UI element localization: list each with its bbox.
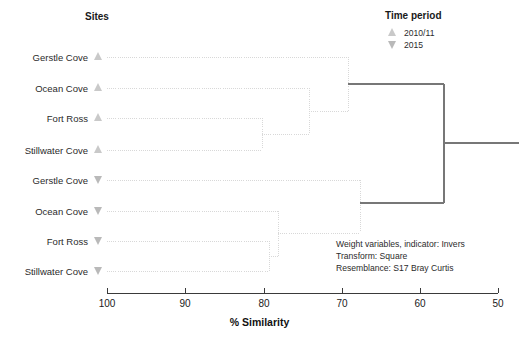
- axis-tick-label-50: 50: [478, 299, 518, 309]
- axis-tick-label-60: 60: [400, 299, 440, 309]
- x-axis: [107, 288, 498, 293]
- x-axis-title: % Similarity: [0, 317, 519, 328]
- note-weight-variables: Weight variables, indicator: Invers: [336, 240, 465, 249]
- axis-tick-label-80: 80: [244, 299, 284, 309]
- note-resemblance: Resemblance: S17 Bray Curtis: [336, 264, 454, 273]
- axis-tick-label-70: 70: [322, 299, 362, 309]
- note-transform: Transform: Square: [336, 252, 407, 261]
- dendrogram-plot: [0, 0, 519, 340]
- dendrogram-root: [348, 84, 519, 203]
- dendrogram-figure: Sites Time period 2010/11 2015 Gerstle C…: [0, 0, 519, 340]
- axis-tick-label-100: 100: [87, 299, 127, 309]
- axis-tick-label-90: 90: [165, 299, 205, 309]
- dendrogram-branches: [107, 57, 360, 271]
